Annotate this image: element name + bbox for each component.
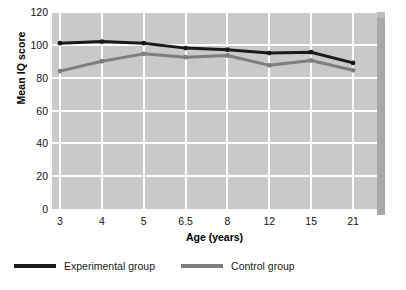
data-point-marker (267, 63, 272, 68)
x-tick-label: 12 (249, 215, 289, 227)
y-tick-label: 60 (22, 106, 48, 116)
y-tick-label: 100 (22, 40, 48, 50)
y-tick-label: 0 (22, 204, 48, 214)
chart-legend: Experimental groupControl group (14, 258, 321, 274)
series-line (60, 54, 353, 71)
legend-line-swatch (181, 264, 223, 268)
x-tick-label: 8 (207, 215, 247, 227)
data-point-marker (183, 46, 188, 51)
plot-right-bevel (377, 18, 385, 215)
data-point-marker (309, 50, 314, 55)
x-tick-label: 3 (40, 215, 80, 227)
data-point-marker (99, 59, 104, 64)
x-tick-label: 21 (333, 215, 373, 227)
data-point-marker (309, 58, 314, 63)
data-point-marker (99, 39, 104, 44)
y-tick-label: 40 (22, 138, 48, 148)
data-point-marker (225, 53, 230, 58)
data-point-marker (351, 60, 356, 65)
y-tick-label: 120 (22, 7, 48, 17)
legend-label: Control group (231, 260, 295, 272)
iq-score-line-chart: Mean IQ score 020406080100120 3456.58121… (0, 0, 406, 290)
y-axis-tick-labels: 020406080100120 (20, 0, 48, 290)
data-point-marker (225, 47, 230, 52)
x-tick-label: 5 (124, 215, 164, 227)
y-tick-label: 20 (22, 171, 48, 181)
y-tick-label: 80 (22, 73, 48, 83)
x-axis-tick-labels: 3456.58121521 (52, 215, 377, 231)
x-tick-label: 15 (291, 215, 331, 227)
data-point-marker (351, 68, 356, 73)
data-point-marker (58, 69, 63, 74)
plot-area (52, 12, 385, 213)
legend-label: Experimental group (64, 260, 155, 272)
data-point-marker (267, 51, 272, 56)
x-tick-label: 6.5 (166, 215, 206, 227)
data-point-marker (141, 51, 146, 56)
x-axis-title: Age (years) (52, 231, 377, 243)
x-tick-label: 4 (82, 215, 122, 227)
data-point-marker (58, 41, 63, 46)
legend-item: Control group (181, 260, 295, 272)
legend-item: Experimental group (14, 260, 155, 272)
data-series-layer (52, 12, 377, 209)
plot-canvas (52, 12, 377, 209)
data-point-marker (183, 55, 188, 60)
legend-line-swatch (14, 264, 56, 268)
data-point-marker (141, 41, 146, 46)
